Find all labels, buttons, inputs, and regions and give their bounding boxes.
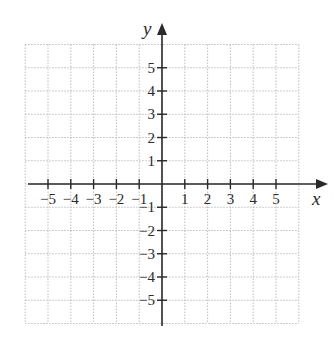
- y-tick-label: −1: [139, 199, 155, 215]
- y-tick-label: 3: [148, 106, 156, 122]
- y-tick-label: −5: [139, 292, 155, 308]
- y-axis-arrow-icon: [157, 23, 167, 35]
- y-tick-label: 4: [148, 83, 156, 99]
- x-tick-label: 3: [227, 191, 235, 207]
- y-tick-label: −2: [139, 223, 155, 239]
- coordinate-plane: x y −5−4−3−2−11234554321−1−2−3−4−5: [0, 0, 334, 349]
- x-tick-label: 4: [249, 191, 257, 207]
- axes: x y: [28, 18, 328, 326]
- x-tick-label: 5: [272, 191, 280, 207]
- x-tick-label: −2: [108, 191, 124, 207]
- y-axis-label: y: [141, 18, 152, 39]
- y-tick-label: 2: [148, 130, 156, 146]
- y-tick-label: −4: [139, 269, 155, 285]
- x-axis-label: x: [311, 188, 321, 209]
- x-tick-label: −3: [86, 191, 102, 207]
- x-tick-label: 1: [181, 191, 189, 207]
- x-tick-label: −5: [40, 191, 56, 207]
- x-tick-label: 2: [204, 191, 212, 207]
- y-tick-label: 1: [148, 153, 156, 169]
- y-tick-label: 5: [148, 60, 156, 76]
- y-tick-label: −3: [139, 246, 155, 262]
- x-tick-label: −4: [63, 191, 79, 207]
